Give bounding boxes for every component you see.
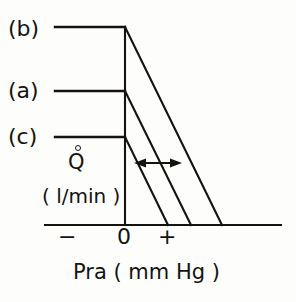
curve-label-a: (a) (8, 80, 39, 102)
x-tick-label-negative: − (58, 226, 76, 248)
curve-b-downslope (125, 27, 222, 225)
curve-label-c: (c) (8, 126, 37, 148)
plot-canvas (0, 0, 296, 302)
curve-c-downslope (125, 137, 168, 225)
y-axis-units: ( l/min ) (42, 186, 120, 206)
y-axis-symbol: Q (68, 152, 85, 173)
venous-return-curve-figure: (b) (a) (c) Q ( l/min ) − 0 + Pra ( mm H… (0, 0, 296, 302)
arrow-head-right (170, 159, 182, 168)
x-tick-label-positive: + (158, 226, 176, 248)
curve-label-b: (b) (8, 18, 39, 40)
x-axis-title: Pra ( mm Hg ) (73, 262, 220, 283)
x-tick-label-zero: 0 (117, 226, 131, 248)
